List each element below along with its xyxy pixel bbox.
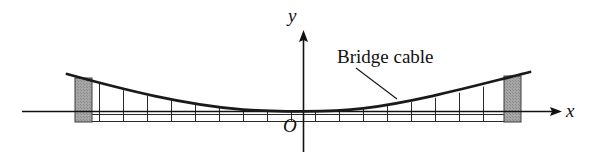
bridge-deck (75, 114, 521, 122)
left-tower (75, 78, 92, 122)
y-axis (299, 30, 308, 152)
annotation-leader-line (356, 68, 397, 99)
y-axis-label: y (288, 6, 296, 25)
x-axis-label: x (566, 101, 574, 120)
bridge-cable-figure: y x O Bridge cable (0, 0, 589, 165)
bridge-cable-curve (67, 72, 530, 111)
origin-label: O (283, 116, 297, 135)
bridge-cable-annotation-label: Bridge cable (337, 47, 434, 66)
right-tower (504, 76, 521, 122)
